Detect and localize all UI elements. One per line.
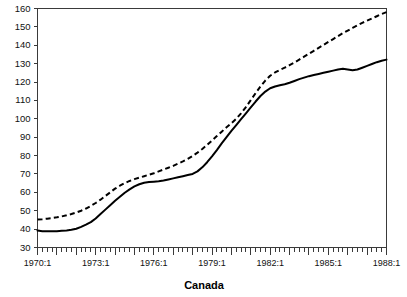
- y-tick-label: 60: [20, 186, 31, 197]
- x-tick-label: 1979:1: [198, 258, 226, 268]
- y-tick-label: 50: [20, 205, 31, 216]
- data-series-group: [38, 12, 387, 231]
- y-tick-label: 150: [15, 21, 31, 32]
- y-tick-label: 100: [15, 113, 31, 124]
- y-tick-label: 140: [15, 39, 31, 50]
- x-axis-title: Canada: [184, 279, 225, 291]
- x-tick-label: 1976:1: [140, 258, 168, 268]
- y-tick-label: 80: [20, 150, 31, 161]
- y-tick-label: 110: [15, 94, 30, 105]
- x-tick-label: 1988:1: [373, 258, 401, 268]
- plot-border: [38, 9, 387, 248]
- y-tick-label: 90: [20, 131, 31, 142]
- series-line-dashed: [38, 12, 387, 219]
- y-tick-label: 130: [15, 58, 31, 69]
- x-tick-label: 1973:1: [82, 258, 110, 268]
- y-tick-label: 160: [15, 3, 31, 14]
- y-tick-label: 30: [20, 242, 31, 253]
- x-axis-tick-labels: 1970:11973:11976:11979:11982:11985:11988…: [24, 258, 401, 268]
- y-axis-ticks: [34, 9, 38, 248]
- chart-container: 30405060708090100110120130140150160 1970…: [0, 0, 407, 297]
- line-chart: 30405060708090100110120130140150160 1970…: [0, 0, 407, 297]
- series-line-solid: [38, 60, 387, 232]
- y-tick-label: 40: [20, 223, 31, 234]
- x-tick-label: 1970:1: [24, 258, 52, 268]
- y-tick-label: 120: [15, 76, 31, 87]
- x-axis-ticks: [38, 248, 387, 255]
- plot-frame: [38, 9, 387, 248]
- x-tick-label: 1982:1: [256, 258, 284, 268]
- y-tick-label: 70: [20, 168, 31, 179]
- x-tick-label: 1985:1: [315, 258, 343, 268]
- y-axis-tick-labels: 30405060708090100110120130140150160: [15, 3, 31, 253]
